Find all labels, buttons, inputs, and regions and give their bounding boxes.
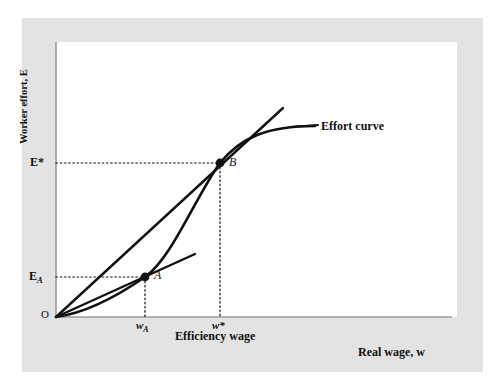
x-tick-label-wa: wA <box>136 319 149 334</box>
axis-frame <box>56 42 452 317</box>
point-a-marker <box>141 273 150 282</box>
x-tick-wa-subscript: A <box>143 325 148 334</box>
point-b-label: B <box>229 155 236 170</box>
effort-curve-path <box>56 126 315 317</box>
y-tick-label-estar: E* <box>30 155 44 170</box>
tangent-ray-through-b <box>56 108 283 317</box>
x-axis-label-real-wage: Real wage, w <box>358 345 425 360</box>
y-tick-label-ea: EA <box>29 269 43 285</box>
origin-label: O <box>41 308 49 320</box>
point-b-marker <box>216 159 225 168</box>
effort-curve-annotation: Effort curve <box>321 119 384 134</box>
y-axis-label: Worker effort, E <box>18 128 29 144</box>
ray-through-a <box>56 254 195 317</box>
y-tick-ea-subscript: A <box>37 275 43 285</box>
point-a-label: A <box>154 268 161 283</box>
effort-curve-diagram <box>0 0 495 382</box>
x-axis-label-efficiency-wage: Efficiency wage <box>175 329 255 344</box>
y-tick-ea-base: E <box>29 269 37 283</box>
